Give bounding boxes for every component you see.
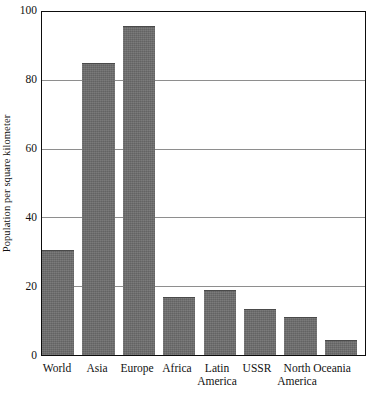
x-tick-label-oceania: Oceania xyxy=(294,362,370,375)
x-tick-label-north-america-line2: America xyxy=(257,375,337,388)
bar-chart: Population per square kilometer 100 80 6… xyxy=(0,0,371,395)
y-tick-label-20: 20 xyxy=(11,280,42,292)
y-tick-label-100: 100 xyxy=(11,4,42,16)
y-tick-label-0: 0 xyxy=(11,349,42,361)
y-axis-title: Population per square kilometer xyxy=(0,11,14,356)
bar-world[interactable] xyxy=(42,250,74,355)
bar-north-america[interactable] xyxy=(284,317,316,355)
bar-ussr[interactable] xyxy=(244,309,276,355)
x-tick-label-latin-america-line2: America xyxy=(177,375,257,388)
plot-area xyxy=(41,11,366,356)
bar-europe[interactable] xyxy=(123,26,155,355)
y-tick-label-80: 80 xyxy=(11,73,42,85)
bars-layer xyxy=(42,12,365,355)
y-tick-label-60: 60 xyxy=(11,142,42,154)
x-tick-label-oceania-line1: Oceania xyxy=(313,362,351,374)
y-tick-label-40: 40 xyxy=(11,211,42,223)
bar-latin-america[interactable] xyxy=(204,290,236,355)
bar-asia[interactable] xyxy=(82,63,114,355)
bar-oceania[interactable] xyxy=(325,340,357,355)
bar-africa[interactable] xyxy=(163,297,195,355)
